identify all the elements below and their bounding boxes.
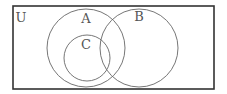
universe-label: U [16,10,27,25]
set-c-label: C [81,37,91,52]
set-b-label: B [134,9,144,24]
set-a-label: A [80,11,91,26]
venn-diagram: U A B C [0,0,227,94]
